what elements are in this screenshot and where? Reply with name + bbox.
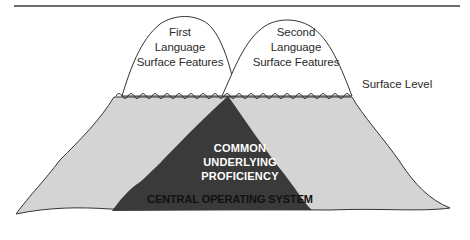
- common-underlying-proficiency-label: COMMON UNDERLYING PROFICIENCY: [180, 141, 300, 183]
- second-language-label: Second Language Surface Features: [236, 25, 356, 70]
- central-operating-system-label: CENTRAL OPERATING SYSTEM: [130, 193, 330, 205]
- label-line: COMMON: [180, 141, 300, 155]
- label-line: Surface Features: [125, 55, 235, 70]
- label-line: First: [125, 25, 235, 40]
- label-line: Language: [125, 40, 235, 55]
- label-line: Surface Features: [236, 55, 356, 70]
- label-line: Second: [236, 25, 356, 40]
- label-line: UNDERLYING: [180, 155, 300, 169]
- label-line: PROFICIENCY: [180, 169, 300, 183]
- surface-level-label: Surface Level: [362, 78, 432, 90]
- label-line: Language: [236, 40, 356, 55]
- first-language-label: First Language Surface Features: [125, 25, 235, 70]
